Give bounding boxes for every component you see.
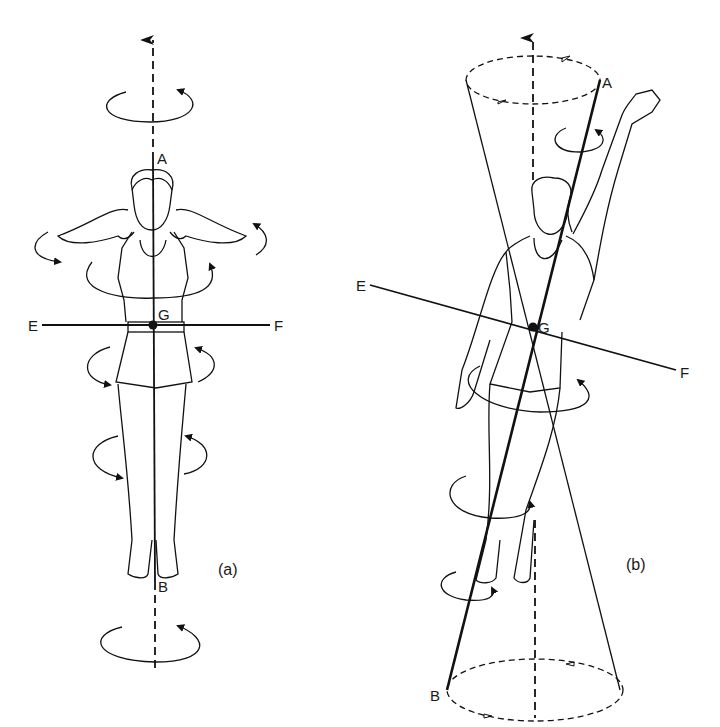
label-b-panel-b: B [430,687,440,704]
human-figure-a [58,170,246,578]
cone-bottom-arrow-1 [566,662,574,666]
caption-panel-b: (b) [626,556,646,573]
rotation-arrow-knee-left-a [93,436,122,478]
rotation-arrow-knee-right-a [184,436,207,474]
panel-b: A G E F B (b) [356,38,689,721]
panel-a: A G E F B (a) [28,40,283,668]
rotation-arrow-hips-right-a [196,348,214,382]
transverse-axis-ef-b [370,285,676,370]
body-axis-ab-a [153,160,155,582]
rotation-arrow-arms-right-a [254,224,266,255]
center-of-gravity-dot-b [529,323,538,332]
rotation-arrow-chest-a [87,262,213,298]
label-g-panel-a: G [158,306,170,323]
rotation-arrow-bottom-a [101,626,200,662]
label-b-panel-a: B [158,578,168,595]
label-a-panel-a: A [157,150,167,167]
rotation-arrow-hips-left-a [88,347,111,385]
rotation-diagram: A G E F B (a) [0,0,720,727]
label-e-panel-a: E [28,317,38,334]
label-f-panel-b: F [680,364,689,381]
rotation-arrow-arms-left-a [35,232,60,262]
rotation-arrow-arm-b [555,128,603,152]
caption-panel-a: (a) [218,561,238,578]
rotation-arrow-hips-b [468,366,589,412]
rotation-arrow-top-a [107,90,193,122]
label-e-panel-b: E [356,277,366,294]
label-g-panel-b: G [538,319,550,336]
rotation-arrow-foot-b [441,572,493,600]
label-f-panel-a: F [274,317,283,334]
center-of-gravity-dot-a [149,321,158,330]
label-a-panel-b: A [602,74,612,91]
cone-top-arrow-1 [562,56,570,62]
